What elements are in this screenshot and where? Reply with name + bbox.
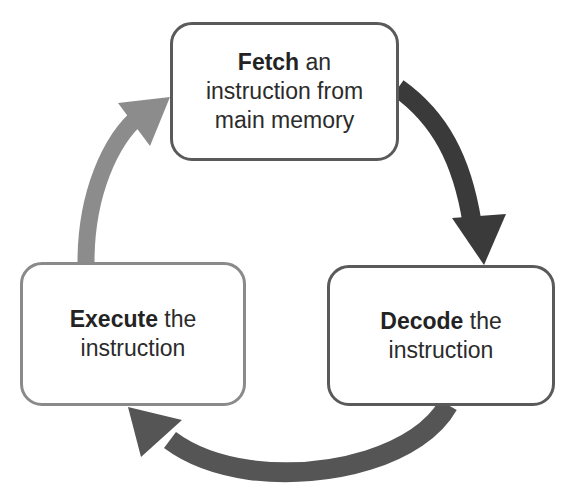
decode-line-1: Decode the [380, 307, 501, 336]
execute-step-box: Execute the instruction [20, 262, 246, 406]
execute-line-2: instruction [81, 334, 186, 363]
fetch-line-1: Fetch an [238, 48, 331, 77]
arrow-execute-to-fetch [86, 115, 140, 262]
decode-bold: Decode [380, 308, 463, 334]
execute-bold: Execute [70, 306, 158, 332]
decode-line-2: instruction [389, 336, 494, 365]
fetch-step-box: Fetch an instruction from main memory [170, 22, 399, 161]
decode-step-box: Decode the instruction [327, 265, 555, 406]
fetch-bold: Fetch [238, 49, 299, 75]
fetch-line-2: instruction from [206, 77, 363, 106]
fetch-line-3: main memory [215, 106, 354, 135]
arrow-fetch-to-decode [398, 88, 472, 222]
arrowhead-decode-icon [452, 214, 506, 265]
arrow-decode-to-execute [170, 405, 448, 472]
execute-line-1: Execute the [70, 305, 197, 334]
